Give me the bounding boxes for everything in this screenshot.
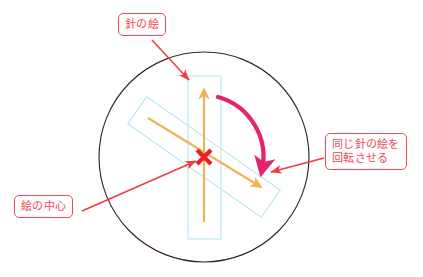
- rotation-direction-arc: [218, 97, 263, 170]
- callout-rotate-same-label-line2: 回転させる: [332, 151, 400, 165]
- leader-line-needle-picture: [152, 40, 189, 80]
- callout-picture-center[interactable]: 絵の中心: [14, 195, 73, 218]
- diagram-canvas: 針の絵 同じ針の絵を 回転させる 絵の中心: [0, 0, 423, 277]
- callout-picture-center-label: 絵の中心: [21, 200, 66, 212]
- callout-needle-picture[interactable]: 針の絵: [118, 13, 166, 36]
- callout-rotate-same-label-line1: 同じ針の絵を: [332, 137, 400, 151]
- callout-rotate-same[interactable]: 同じ針の絵を 回転させる: [325, 133, 407, 170]
- callout-needle-picture-label: 針の絵: [125, 18, 159, 30]
- leader-line-rotate-same: [271, 158, 324, 172]
